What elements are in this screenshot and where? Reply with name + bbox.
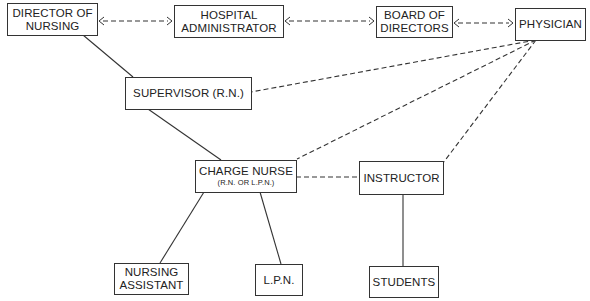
node-nursing-assistant: NURSING ASSISTANT (114, 263, 189, 295)
edge-supervisor-charge-nurse (148, 109, 221, 160)
node-label: CHARGE NURSE (199, 165, 293, 178)
edge-charge-nurse-lpn (260, 192, 281, 264)
node-supervisor: SUPERVISOR (R.N.) (125, 77, 252, 110)
edge-charge-nurse-nursing-assistant (160, 192, 204, 263)
node-label: ADMINISTRATOR (181, 22, 276, 35)
node-hospital-administrator: HOSPITAL ADMINISTRATOR (174, 5, 284, 38)
node-physician: PHYSICIAN (515, 8, 586, 41)
node-sublabel: (R.N. OR L.P.N.) (218, 178, 275, 188)
node-label: NURSING (26, 20, 80, 33)
edge-physician-supervisor (251, 40, 536, 92)
node-label: BOARD OF (384, 9, 445, 22)
edge-director-supervisor (83, 35, 133, 77)
node-students: STUDENTS (369, 266, 439, 298)
node-director-of-nursing: DIRECTOR OF NURSING (7, 3, 98, 36)
node-label: STUDENTS (373, 276, 436, 289)
edge-physician-charge-nurse (297, 40, 536, 159)
node-label: DIRECTOR OF (12, 7, 92, 20)
node-label: L.P.N. (263, 274, 294, 287)
node-label: PHYSICIAN (519, 18, 582, 31)
node-label: INSTRUCTOR (363, 172, 439, 185)
node-charge-nurse: CHARGE NURSE (R.N. OR L.P.N.) (195, 160, 297, 193)
node-label: ASSISTANT (120, 279, 184, 292)
node-label: HOSPITAL (201, 9, 258, 22)
edge-physician-instructor (443, 40, 536, 163)
node-board-of-directors: BOARD OF DIRECTORS (376, 6, 453, 38)
node-label: SUPERVISOR (R.N.) (133, 87, 244, 100)
node-lpn: L.P.N. (255, 264, 303, 296)
node-instructor: INSTRUCTOR (359, 161, 444, 195)
node-label: DIRECTORS (380, 22, 448, 35)
connector-lines (0, 0, 590, 301)
node-label: NURSING (125, 266, 179, 279)
